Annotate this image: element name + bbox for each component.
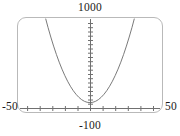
axis-label-left: -50: [2, 101, 18, 113]
chart-figure: 1000 -100 -50 50: [0, 0, 180, 136]
plot-canvas: [0, 0, 180, 136]
axis-label-top: 1000: [0, 2, 180, 14]
axis-label-right: 50: [165, 101, 177, 113]
axis-label-bottom: -100: [0, 120, 180, 132]
